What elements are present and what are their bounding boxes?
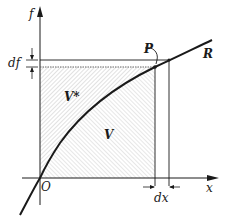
df-arrow-bottom-icon bbox=[30, 67, 34, 72]
region-v-star-label: V* bbox=[64, 90, 80, 104]
dx-arrow-left-icon bbox=[150, 185, 155, 189]
point-dot-2 bbox=[168, 59, 171, 62]
df-label: df bbox=[8, 56, 23, 70]
f-axis-arrow-icon bbox=[37, 6, 43, 17]
dx-arrow-right-icon bbox=[169, 185, 174, 189]
x-axis-label: x bbox=[206, 181, 213, 195]
dx-label: dx bbox=[154, 191, 169, 205]
work-complementary-work-diagram: f x O df dx P R V* V bbox=[0, 0, 227, 218]
origin-label: O bbox=[41, 180, 51, 194]
curve-r-label: R bbox=[202, 47, 213, 61]
point-p-dot bbox=[153, 65, 157, 69]
df-arrow-top-icon bbox=[30, 55, 34, 60]
point-p-label: P bbox=[143, 42, 154, 56]
f-axis-label: f bbox=[28, 7, 36, 21]
